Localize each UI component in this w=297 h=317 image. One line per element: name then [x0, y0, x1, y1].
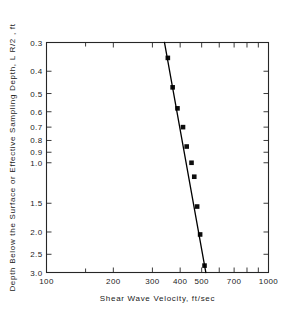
- y-axis-tick-label: 2.0: [30, 228, 42, 237]
- data-point: [184, 144, 189, 149]
- y-axis-tick-label: 2.5: [30, 250, 42, 259]
- x-axis-tick-label: 200: [106, 277, 121, 286]
- data-point: [195, 204, 200, 209]
- data-point: [192, 174, 197, 179]
- y-axis-tick-label: 0.3: [30, 39, 42, 48]
- data-point: [181, 125, 186, 130]
- x-axis-tick-label: 500: [194, 277, 209, 286]
- best-fit-line: [164, 43, 205, 273]
- x-axis-title: Shear Wave Velocity, ft/sec: [100, 294, 215, 303]
- x-axis-tick-label: 700: [227, 277, 242, 286]
- plot-frame: [47, 43, 269, 273]
- y-axis-tick-label: 0.7: [30, 123, 42, 132]
- y-axis-tick-label: 3.0: [30, 269, 42, 278]
- y-axis-tick-label: 0.8: [30, 136, 42, 145]
- x-axis-tick-label: 100: [39, 277, 54, 286]
- x-axis-tick-label: 1000: [259, 277, 279, 286]
- x-axis-tick-label: 400: [173, 277, 188, 286]
- x-axis-tick-label: 300: [145, 277, 160, 286]
- chart-figure: 1002003004005007001000Shear Wave Velocit…: [0, 0, 297, 317]
- y-axis-tick-label: 0.6: [30, 108, 42, 117]
- y-axis-tick-label: 1.0: [30, 159, 42, 168]
- shear-wave-velocity-depth-plot: 1002003004005007001000Shear Wave Velocit…: [0, 0, 297, 317]
- y-axis-title: Depth Below the Surface or Effective Sam…: [8, 23, 17, 291]
- y-axis-tick-label: 0.4: [30, 67, 42, 76]
- y-axis-tick-label: 1.5: [30, 199, 42, 208]
- data-point: [189, 160, 194, 165]
- y-axis-tick-label: 0.9: [30, 148, 42, 157]
- y-axis-tick-label: 0.5: [30, 90, 42, 99]
